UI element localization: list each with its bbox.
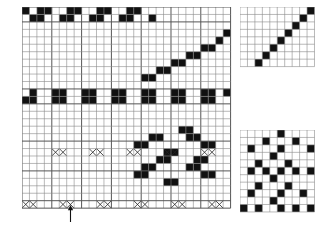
weaving-draft-figure [0,0,317,228]
drawdown-panel [22,7,231,208]
treadling-panel [240,130,315,212]
repeat-start-arrow [66,205,75,222]
tie-up-panel [240,7,315,67]
